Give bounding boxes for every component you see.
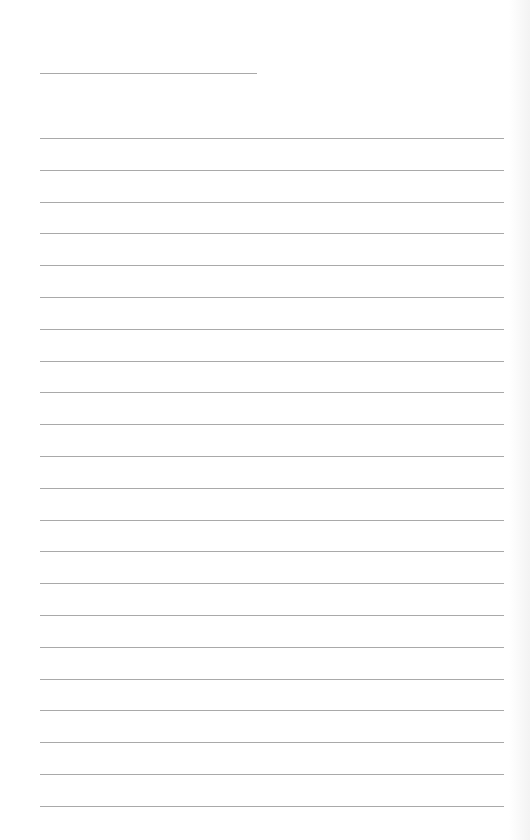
ruled-line [40,329,504,330]
ruled-line [40,488,504,489]
ruled-line [40,138,504,139]
ruled-line [40,583,504,584]
ruled-line [40,456,504,457]
header-rule [40,73,257,74]
ruled-line [40,520,504,521]
ruled-line [40,424,504,425]
ruled-line [40,233,504,234]
ruled-line [40,774,504,775]
ruled-line [40,647,504,648]
lined-paper-page [0,0,530,840]
ruled-line [40,710,504,711]
ruled-line [40,202,504,203]
ruled-line [40,551,504,552]
ruled-line [40,170,504,171]
ruled-line [40,392,504,393]
ruled-line [40,297,504,298]
ruled-line [40,679,504,680]
ruled-line [40,265,504,266]
ruled-line [40,361,504,362]
ruled-line [40,742,504,743]
ruled-line [40,806,504,807]
ruled-line [40,615,504,616]
